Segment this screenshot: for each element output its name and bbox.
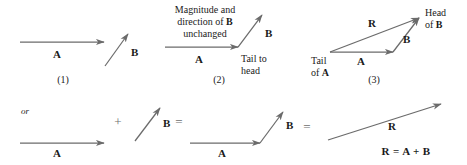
panel3-head-line2: of B	[425, 19, 446, 31]
vector-arrow-b-panel2	[238, 15, 262, 47]
vector-label-b-bottom-2: B	[286, 119, 293, 132]
panel2-tail-to-head-note: Tail to head	[241, 53, 267, 77]
or-text: or	[21, 106, 29, 117]
panel3-tail-line2-text: of	[311, 67, 322, 78]
panel2-caption-line3: unchanged	[175, 28, 235, 40]
vector-label-r-panel3: R	[368, 17, 376, 30]
panel3-tail-line1: Tail	[311, 55, 329, 67]
plus-operator: +	[114, 114, 121, 129]
panel-number-1: (1)	[57, 74, 69, 86]
panel3-tail-line2: of A	[311, 67, 329, 79]
equals-operator-2: =	[303, 119, 310, 134]
resultant-equation: R = A + B	[381, 145, 430, 158]
vector-arrow-b-bottom-1	[135, 108, 160, 141]
vector-arrow-b-panel1	[105, 34, 128, 66]
vector-label-a-panel1: A	[53, 48, 61, 61]
panel2-note-line2: head	[241, 65, 267, 77]
panel2-note-line1: Tail to	[241, 53, 267, 65]
vector-label-r-bottom: R	[388, 120, 396, 133]
panel2-caption-line2-text: direction of	[177, 16, 226, 27]
panel3-tail-line2-vector: A	[322, 67, 329, 78]
vector-label-a-bottom-1: A	[53, 147, 61, 160]
vector-label-a-panel2: A	[195, 53, 203, 66]
vector-label-a-bottom-2: A	[218, 147, 226, 160]
vector-label-b-bottom-1: B	[163, 117, 170, 130]
vector-arrow-b-bottom-2	[260, 112, 283, 143]
vector-arrow-r-bottom	[328, 104, 441, 140]
panel2-caption-line2-vector: B	[226, 16, 233, 27]
vector-addition-figure: A B (1) Magnitude and direction of B unc…	[0, 0, 467, 165]
vector-label-a-panel3: A	[357, 55, 365, 68]
panel2-caption: Magnitude and direction of B unchanged	[175, 4, 235, 39]
panel3-head-line1: Head	[425, 7, 446, 19]
panel2-caption-line1: Magnitude and	[175, 4, 235, 16]
vector-label-b-panel1: B	[131, 46, 138, 59]
panel3-head-of-b-note: Head of B	[425, 7, 446, 31]
panel2-caption-line2: direction of B	[175, 16, 235, 28]
vector-label-b-panel2: B	[265, 27, 272, 40]
panel3-tail-of-a-note: Tail of A	[311, 55, 329, 79]
panel-number-2: (2)	[213, 74, 225, 86]
panel-number-3: (3)	[368, 74, 380, 86]
panel3-head-line2-text: of	[425, 19, 436, 30]
equals-operator-1: =	[175, 114, 182, 129]
panel3-head-line2-vector: B	[436, 19, 443, 30]
vector-label-b-panel3: B	[403, 33, 410, 46]
